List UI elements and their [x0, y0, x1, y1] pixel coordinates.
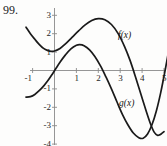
- y-tick-label: -2: [44, 103, 52, 112]
- curve-label-f: f(x): [118, 31, 131, 41]
- x-tick-label: 5: [162, 74, 167, 83]
- x-tick-label: 1: [74, 74, 79, 83]
- x-tick-label: 3: [118, 74, 123, 83]
- y-tick-label: -3: [44, 121, 52, 130]
- figure-container: 99. -112345321-1-2-3-4 f(x) g(x): [0, 0, 167, 146]
- x-tick-label: 2: [96, 74, 101, 83]
- y-tick-label: 1: [47, 48, 52, 57]
- y-tick-label: -1: [44, 84, 52, 93]
- y-tick-label: 3: [47, 11, 52, 20]
- x-tick-label: 4: [140, 74, 145, 83]
- x-tick-label: -1: [25, 74, 33, 83]
- curve-label-g: g(x): [119, 99, 134, 109]
- y-tick-label: -4: [44, 140, 52, 146]
- y-tick-label: 2: [47, 29, 52, 38]
